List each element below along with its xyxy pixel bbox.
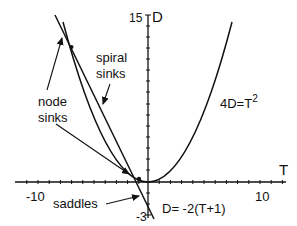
spiral-sinks-annotation: spiral sinks [96, 50, 127, 104]
intersection-point-lower [137, 177, 141, 181]
parabola-equation-label: 4D=T2 [220, 93, 258, 111]
parabola-label-exponent: 2 [252, 93, 258, 104]
node-sinks-label-line1: node [38, 94, 67, 109]
intersection-point-upper [70, 45, 74, 49]
parabola-label-text: 4D=T [220, 96, 252, 111]
node-sinks-arrow-upper [47, 38, 62, 90]
d-tick-label-neg3: -3 [136, 210, 147, 224]
d-axis: D 15 -3 [129, 8, 163, 224]
spiral-sinks-arrow [103, 84, 110, 104]
spiral-sinks-label-line1: spiral [96, 50, 127, 65]
node-sinks-label-line2: sinks [38, 110, 68, 125]
saddles-label: saddles [53, 196, 98, 211]
line-d-eq-neg2-t-plus-1 [55, 15, 154, 219]
stability-diagram: T -10 10 D 15 -3 [0, 0, 297, 226]
spiral-sinks-label-line2: sinks [96, 66, 126, 81]
svg-text:4D=T2: 4D=T2 [220, 93, 258, 111]
t-tick-label-10: 10 [255, 189, 269, 204]
d-axis-label: D [152, 8, 163, 25]
saddles-annotation: saddles [53, 196, 139, 211]
d-tick-label-15: 15 [129, 11, 143, 25]
line-equation-label: D= -2(T+1) [162, 201, 226, 216]
saddles-arrow [106, 196, 139, 204]
node-sinks-arrow-lower [56, 124, 129, 174]
t-tick-label-neg10: -10 [26, 189, 45, 204]
t-axis-label: T [279, 161, 288, 178]
